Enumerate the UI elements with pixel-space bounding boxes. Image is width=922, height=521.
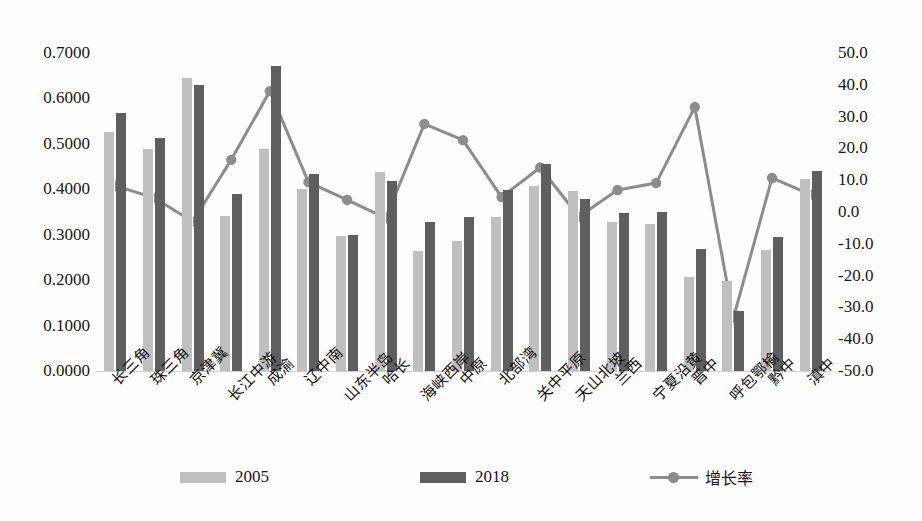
bar-group	[366, 53, 405, 371]
legend-label: 2005	[235, 467, 269, 487]
bar-2005	[413, 251, 424, 371]
legend-item: 增长率	[650, 466, 753, 488]
legend-line-marker-icon	[650, 471, 698, 483]
bar-2005	[491, 217, 502, 371]
y-axis-tick-label: 0.0000	[43, 362, 90, 379]
bar-group	[328, 53, 367, 371]
bar-2018	[541, 164, 551, 371]
y-axis-tick-label: 0.2000	[43, 271, 90, 288]
y-axis-tick-label: 0.5000	[43, 135, 90, 152]
bar-2005	[568, 191, 579, 371]
bar-2018	[232, 194, 242, 371]
bar-group	[637, 53, 676, 371]
bar-group	[444, 53, 483, 371]
bar-2018	[580, 199, 590, 371]
bar-2018	[734, 311, 744, 371]
bar-2018	[425, 222, 435, 371]
y2-axis-tick-label: 0.0	[838, 203, 859, 220]
legend-swatch-icon	[420, 472, 466, 483]
chart-figure: 0.00000.10000.20000.30000.40000.50000.60…	[0, 0, 922, 521]
bar-2018	[155, 138, 165, 371]
y-axis-left: 0.00000.10000.20000.30000.40000.50000.60…	[18, 0, 90, 521]
y-axis-tick-label: 0.6000	[43, 89, 90, 106]
bar-2018	[271, 66, 281, 371]
bar-2005	[143, 149, 154, 371]
y2-axis-tick-label: -50.0	[838, 362, 873, 379]
bar-group	[598, 53, 637, 371]
bar-2018	[194, 85, 204, 371]
bar-group	[173, 53, 212, 371]
bar-2018	[812, 171, 822, 371]
legend-label: 增长率	[705, 465, 753, 489]
bar-group	[212, 53, 251, 371]
bar-group	[405, 53, 444, 371]
bar-2018	[348, 235, 358, 371]
plot-area	[96, 53, 830, 371]
bar-2005	[104, 132, 115, 371]
y2-axis-tick-label: -40.0	[838, 330, 873, 347]
legend-item: 2005	[180, 466, 269, 488]
bar-2018	[464, 217, 474, 371]
bar-group	[714, 53, 753, 371]
bar-group	[251, 53, 290, 371]
legend-item: 2018	[420, 466, 509, 488]
y-axis-tick-label: 0.3000	[43, 226, 90, 243]
bar-2018	[773, 237, 783, 371]
bar-group	[753, 53, 792, 371]
y2-axis-tick-label: 30.0	[838, 108, 868, 125]
bar-group	[289, 53, 328, 371]
y2-axis-tick-label: -10.0	[838, 235, 873, 252]
bar-2018	[116, 113, 126, 371]
bar-group	[96, 53, 135, 371]
bar-2018	[503, 190, 513, 371]
bar-2005	[182, 78, 193, 371]
bar-2018	[387, 181, 397, 371]
chart-legend: 20052018增长率	[0, 466, 922, 496]
bar-group	[482, 53, 521, 371]
y2-axis-tick-label: 10.0	[838, 171, 868, 188]
y-axis-tick-label: 0.7000	[43, 44, 90, 61]
y-axis-tick-label: 0.1000	[43, 317, 90, 334]
bar-2005	[297, 189, 308, 371]
y2-axis-tick-label: 40.0	[838, 76, 868, 93]
bar-2018	[657, 212, 667, 371]
bar-2018	[309, 174, 319, 371]
bar-2005	[645, 224, 656, 371]
bar-2005	[259, 149, 270, 371]
bar-2005	[375, 172, 386, 371]
bar-2018	[619, 213, 629, 371]
bar-group	[521, 53, 560, 371]
bar-2005	[722, 281, 733, 371]
y-axis-tick-label: 0.4000	[43, 180, 90, 197]
bar-group	[675, 53, 714, 371]
bar-group	[791, 53, 830, 371]
y2-axis-tick-label: -20.0	[838, 267, 873, 284]
legend-swatch-icon	[180, 472, 226, 483]
bar-2005	[800, 179, 811, 371]
y2-axis-tick-label: 50.0	[838, 44, 868, 61]
y2-axis-tick-label: -30.0	[838, 298, 873, 315]
y2-axis-tick-label: 20.0	[838, 139, 868, 156]
bar-group	[135, 53, 174, 371]
legend-label: 2018	[475, 467, 509, 487]
bar-group	[560, 53, 599, 371]
bar-2005	[529, 186, 540, 371]
y-axis-right: -50.0-40.0-30.0-20.0-10.00.010.020.030.0…	[838, 0, 908, 521]
